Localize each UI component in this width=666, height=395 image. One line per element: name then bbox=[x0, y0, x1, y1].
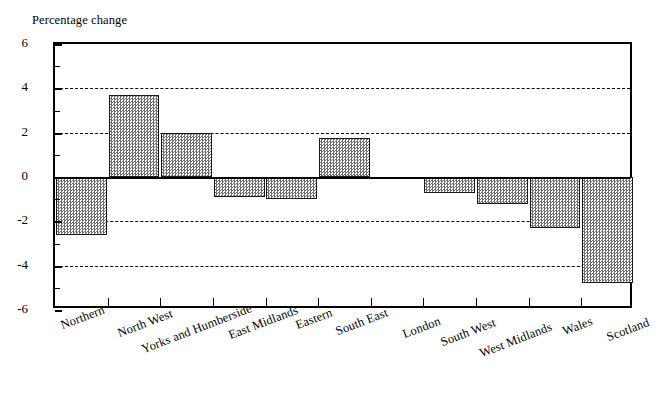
x-tick bbox=[371, 298, 372, 307]
x-axis-label: East Midlands bbox=[227, 304, 300, 343]
y-tick-minor bbox=[55, 199, 60, 200]
y-tick-major bbox=[55, 133, 62, 135]
x-axis-label: Yorks and Humberside bbox=[140, 302, 254, 357]
y-tick-major bbox=[55, 310, 62, 312]
x-tick bbox=[266, 298, 267, 307]
bar[interactable] bbox=[109, 95, 160, 177]
x-axis-label: Scotland bbox=[605, 316, 652, 345]
x-tick bbox=[476, 298, 477, 307]
x-tick bbox=[108, 298, 109, 307]
bar[interactable] bbox=[266, 177, 317, 199]
x-tick bbox=[318, 298, 319, 307]
y-tick-label: 0 bbox=[0, 169, 28, 182]
gridline bbox=[55, 266, 630, 267]
y-tick-major bbox=[55, 88, 62, 90]
x-axis-label: North West bbox=[116, 307, 175, 341]
x-axis-label: Eastern bbox=[294, 306, 335, 333]
bar[interactable] bbox=[424, 177, 475, 193]
x-tick bbox=[529, 298, 530, 307]
y-tick-minor bbox=[55, 66, 60, 67]
x-axis-label: South West bbox=[439, 316, 498, 350]
y-tick-major bbox=[55, 44, 62, 46]
y-tick-label: 6 bbox=[0, 36, 28, 49]
y-tick-minor bbox=[55, 244, 60, 245]
plot-area bbox=[53, 42, 632, 308]
x-tick bbox=[160, 298, 161, 307]
y-tick-minor bbox=[55, 288, 60, 289]
bar-chart-figure: Percentage change 6420-2-4-6 NorthernNor… bbox=[0, 0, 666, 395]
y-tick-major bbox=[55, 221, 62, 223]
x-tick bbox=[581, 298, 582, 307]
plot-inner bbox=[55, 44, 630, 306]
bar[interactable] bbox=[477, 177, 528, 204]
y-tick-label: -6 bbox=[0, 302, 28, 315]
bar[interactable] bbox=[161, 133, 212, 177]
gridline bbox=[55, 88, 630, 89]
bar[interactable] bbox=[582, 177, 633, 283]
y-tick-label: 4 bbox=[0, 80, 28, 93]
x-tick bbox=[423, 298, 424, 307]
y-tick-label: -4 bbox=[0, 257, 28, 270]
x-axis-label: South East bbox=[334, 306, 390, 338]
zero-baseline bbox=[55, 177, 630, 179]
bar[interactable] bbox=[214, 177, 265, 197]
y-axis-title: Percentage change bbox=[32, 13, 127, 28]
bar[interactable] bbox=[530, 177, 581, 228]
x-axis-label: West Midlands bbox=[478, 321, 554, 361]
bar[interactable] bbox=[56, 177, 107, 235]
x-axis-label: London bbox=[401, 315, 443, 342]
y-tick-major bbox=[55, 266, 62, 268]
x-axis-label: Wales bbox=[561, 315, 595, 339]
x-tick bbox=[213, 298, 214, 307]
bar[interactable] bbox=[319, 138, 370, 177]
y-tick-minor bbox=[55, 155, 60, 156]
y-tick-label: -2 bbox=[0, 213, 28, 226]
y-tick-minor bbox=[55, 111, 60, 112]
y-tick-label: 2 bbox=[0, 124, 28, 137]
